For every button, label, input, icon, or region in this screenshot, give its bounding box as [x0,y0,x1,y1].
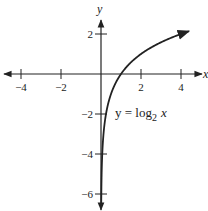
log2-graph: −4−224 2−2−4−6 x y y = log2x [0,0,208,211]
y-axis-label: y [96,2,103,16]
curve-label-main: y = log [115,105,152,120]
y-ticks: 2−2−4−6 [81,28,107,200]
y-tick-label: 2 [88,28,94,40]
x-tick-label: 4 [178,81,184,93]
x-tick-label: 2 [138,81,144,93]
x-tick-label: −4 [15,81,27,93]
x-axis-label: x [202,67,208,81]
y-tick-label: −2 [81,108,93,120]
curve-label-subscript: 2 [152,112,157,123]
curve-label-tail: x [160,105,167,120]
y-tick-label: −4 [81,148,93,160]
x-tick-label: −2 [55,81,67,93]
curve-label: y = log2x [115,105,167,123]
x-ticks: −4−224 [15,69,184,93]
y-tick-label: −6 [81,188,93,200]
